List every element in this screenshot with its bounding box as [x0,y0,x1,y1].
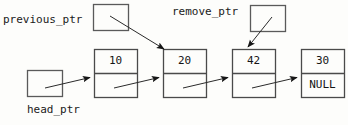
linked-list-diagram: previous_ptr remove_ptr head_ptr 10 20 4… [0,0,348,125]
remove-ptr-box [251,6,286,32]
previous-ptr-label: previous_ptr [3,13,82,26]
node-10-value: 10 [94,54,137,67]
node-30-next-value: NULL [301,78,344,91]
head-ptr-label: head_ptr [27,103,80,116]
node-20-value: 20 [163,54,206,67]
remove-ptr-label: remove_ptr [172,5,238,18]
node-42-value: 42 [232,54,275,67]
arrow-previous-ptr-to-node-20 [110,16,164,49]
previous-ptr-box [94,5,129,31]
head-ptr-box [28,71,63,97]
node-30-value: 30 [301,54,344,67]
